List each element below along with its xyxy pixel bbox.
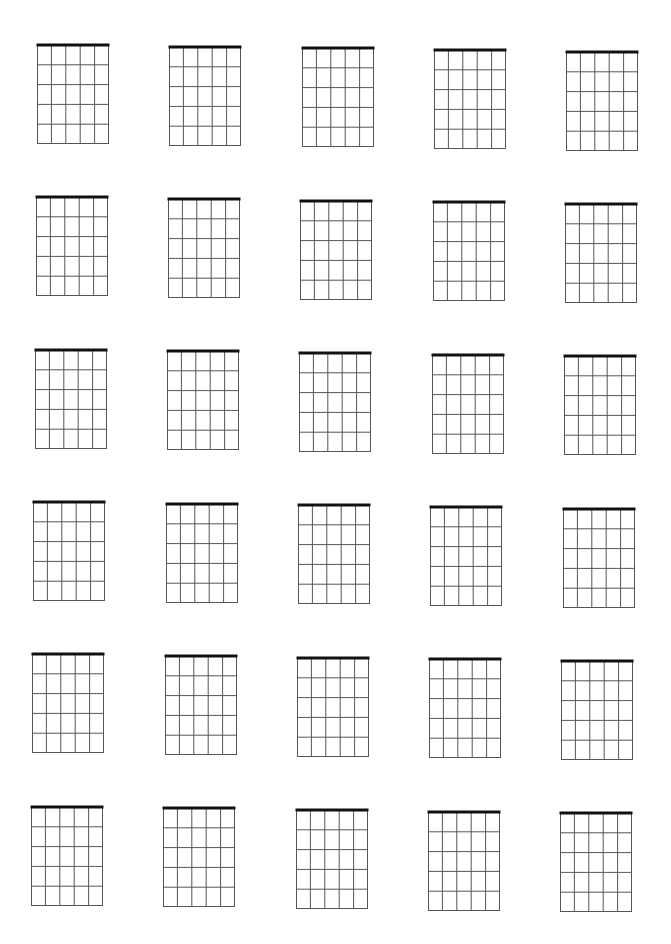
chord-diagram bbox=[167, 351, 239, 450]
nut-bar bbox=[168, 198, 241, 201]
chord-diagram bbox=[563, 509, 635, 608]
chord-diagram bbox=[429, 659, 501, 758]
nut-bar bbox=[300, 199, 373, 202]
nut-bar bbox=[37, 44, 110, 47]
fretboard-grid bbox=[35, 350, 107, 449]
nut-bar bbox=[560, 812, 633, 815]
nut-bar bbox=[169, 45, 242, 48]
nut-bar bbox=[34, 348, 107, 351]
fretboard-grid bbox=[429, 659, 501, 758]
fretboard-grid bbox=[298, 505, 370, 604]
fretboard-grid bbox=[296, 810, 368, 909]
chord-diagram bbox=[560, 813, 632, 912]
fretboard-grid bbox=[560, 813, 632, 912]
fretboard-grid bbox=[166, 504, 238, 603]
nut-bar bbox=[430, 506, 503, 509]
fretboard-grid bbox=[564, 356, 636, 455]
nut-bar bbox=[561, 660, 634, 663]
nut-bar bbox=[163, 807, 236, 810]
chord-diagram bbox=[165, 656, 237, 755]
nut-bar bbox=[33, 500, 106, 503]
nut-bar bbox=[32, 653, 105, 656]
nut-bar bbox=[298, 504, 371, 507]
chord-diagram bbox=[561, 661, 633, 760]
fretboard-grid bbox=[561, 661, 633, 760]
fretboard-grid bbox=[566, 52, 638, 151]
fretboard-grid bbox=[169, 47, 241, 146]
chord-diagram bbox=[299, 353, 371, 452]
chord-diagram bbox=[433, 202, 505, 301]
nut-bar bbox=[429, 658, 502, 661]
chord-diagram bbox=[430, 507, 502, 606]
nut-bar bbox=[165, 502, 238, 505]
fretboard-grid bbox=[36, 197, 108, 296]
nut-bar bbox=[563, 355, 636, 358]
chord-diagram bbox=[166, 504, 238, 603]
nut-bar bbox=[565, 203, 638, 206]
nut-bar bbox=[566, 50, 639, 53]
fretboard-grid bbox=[302, 48, 374, 147]
fretboard-grid bbox=[163, 808, 235, 907]
fretboard-grid bbox=[434, 50, 506, 149]
fretboard-grid bbox=[33, 502, 105, 601]
chord-diagram bbox=[32, 654, 104, 753]
chord-diagram bbox=[297, 658, 369, 757]
nut-bar bbox=[295, 808, 368, 811]
fretboard-grid bbox=[299, 353, 371, 452]
nut-bar bbox=[427, 810, 500, 813]
nut-bar bbox=[35, 196, 108, 199]
fretboard-grid bbox=[428, 812, 500, 911]
fretboard-grid bbox=[297, 658, 369, 757]
chord-diagram bbox=[33, 502, 105, 601]
nut-bar bbox=[562, 507, 635, 510]
chord-diagram bbox=[300, 201, 372, 300]
chord-diagram bbox=[428, 812, 500, 911]
fretboard-grid bbox=[433, 202, 505, 301]
chord-diagram bbox=[168, 199, 240, 298]
chord-diagram bbox=[432, 355, 504, 454]
fretboard-grid bbox=[430, 507, 502, 606]
fretboard-grid bbox=[32, 654, 104, 753]
chord-diagram bbox=[564, 356, 636, 455]
fretboard-grid bbox=[563, 509, 635, 608]
chord-diagram bbox=[434, 50, 506, 149]
nut-bar bbox=[31, 805, 104, 808]
chord-diagram bbox=[296, 810, 368, 909]
chord-diagram bbox=[566, 52, 638, 151]
nut-bar bbox=[432, 201, 505, 204]
fretboard-grid bbox=[31, 807, 103, 906]
chord-diagram bbox=[169, 47, 241, 146]
nut-bar bbox=[301, 47, 374, 50]
nut-bar bbox=[431, 353, 504, 356]
chord-diagram bbox=[35, 350, 107, 449]
fretboard-grid bbox=[37, 45, 109, 144]
chord-diagram bbox=[36, 197, 108, 296]
chord-diagram bbox=[302, 48, 374, 147]
fretboard-grid bbox=[565, 204, 637, 303]
fretboard-grid bbox=[168, 199, 240, 298]
nut-bar bbox=[433, 49, 506, 52]
nut-bar bbox=[299, 352, 372, 355]
chord-diagram bbox=[298, 505, 370, 604]
nut-bar bbox=[296, 656, 369, 659]
fretboard-grid bbox=[300, 201, 372, 300]
fretboard-grid bbox=[167, 351, 239, 450]
chord-diagram bbox=[565, 204, 637, 303]
chord-diagram bbox=[37, 45, 109, 144]
chord-diagram bbox=[163, 808, 235, 907]
chord-diagram bbox=[31, 807, 103, 906]
nut-bar bbox=[164, 654, 237, 657]
nut-bar bbox=[166, 350, 239, 353]
fretboard-grid bbox=[432, 355, 504, 454]
fretboard-grid bbox=[165, 656, 237, 755]
